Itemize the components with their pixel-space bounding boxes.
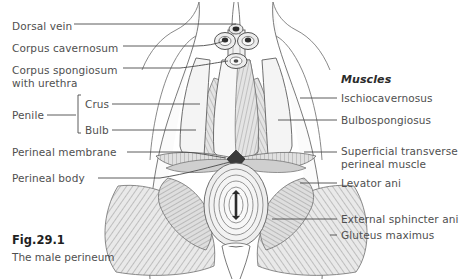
label-perineal-membrane: Perineal membrane bbox=[12, 146, 117, 159]
label-crus: Crus bbox=[85, 98, 109, 111]
label-ischiocavernosus: Ischiocavernosus bbox=[341, 92, 433, 105]
coccyx-shape bbox=[222, 243, 250, 279]
label-penile: Penile bbox=[12, 109, 44, 122]
label-superficial-transverse: Superficial transverse bbox=[341, 145, 458, 158]
label-corpus-spongiosum-line2: with urethra bbox=[12, 77, 78, 90]
label-perineal-body: Perineal body bbox=[12, 172, 85, 185]
label-corpus-spongiosum: Corpus spongiosum bbox=[12, 64, 117, 77]
leader-corpus-spongiosum bbox=[123, 61, 228, 68]
label-bulbospongiosus: Bulbospongiosus bbox=[341, 114, 431, 127]
label-corpus-cavernosum: Corpus cavernosum bbox=[12, 42, 118, 55]
corpus-spongiosum-shape bbox=[225, 54, 247, 69]
leader-corpus-cavernosum bbox=[123, 41, 224, 46]
dorsal-vein-shape bbox=[229, 24, 243, 34]
label-levator-ani: Levator ani bbox=[341, 177, 401, 190]
external-sphincter-ani-shape bbox=[204, 163, 268, 247]
figure-number: Fig.29.1 bbox=[12, 233, 65, 247]
label-superficial-transverse-line2: perineal muscle bbox=[341, 158, 426, 171]
penile-bracket bbox=[78, 95, 81, 133]
figure-caption: The male perineum bbox=[12, 251, 115, 263]
penile-bulb-shape bbox=[213, 60, 258, 160]
label-muscles-heading: Muscles bbox=[341, 74, 391, 87]
label-bulb: Bulb bbox=[85, 124, 109, 137]
label-gluteus-maximus: Gluteus maximus bbox=[341, 229, 434, 242]
label-dorsal-vein: Dorsal vein bbox=[12, 20, 72, 33]
label-external-sphincter-ani: External sphincter ani bbox=[341, 213, 458, 226]
